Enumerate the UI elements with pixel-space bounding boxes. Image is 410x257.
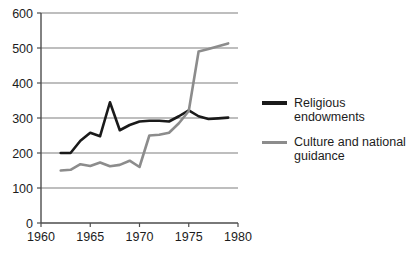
y-tick-label: 100	[12, 182, 33, 196]
legend-item-culture-and-national-guidance: Culture and national guidance	[262, 135, 408, 163]
x-tick-label: 1960	[27, 230, 55, 244]
legend-label-culture-and-national-guidance: Culture and national guidance	[294, 135, 406, 163]
legend-label-religious-endowments: Religious endowments	[294, 96, 365, 124]
legend-item-religious-endowments: Religious endowments	[262, 96, 408, 124]
legend-swatch-icon-culture-and-national-guidance	[262, 141, 287, 144]
y-tick-label: 200	[12, 147, 33, 161]
y-tick-label: 600	[12, 7, 33, 21]
y-tick-label: 500	[12, 42, 33, 56]
y-tick-label: 300	[12, 112, 33, 126]
x-tick-label: 1965	[76, 230, 104, 244]
y-tick-label: 0	[26, 217, 33, 231]
x-tick-label: 1980	[224, 230, 252, 244]
legend-swatch-icon-religious-endowments	[262, 101, 287, 105]
x-tick-label: 1975	[175, 230, 203, 244]
line-chart: 6005004003002001000 19601965197019751980…	[0, 0, 410, 257]
x-tick-label: 1970	[126, 230, 154, 244]
chart-legend: Religious endowments Culture and nationa…	[262, 96, 408, 174]
y-tick-label: 400	[12, 77, 33, 91]
